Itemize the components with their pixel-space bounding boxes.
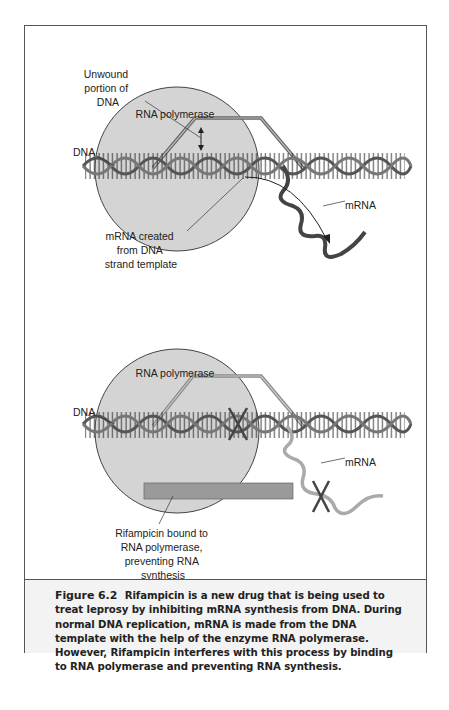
rifampicin-bar xyxy=(144,483,293,499)
mrna-label: mRNA xyxy=(345,199,376,211)
dna-helix-2 xyxy=(83,412,411,438)
transcription-diagram: RNA polymerase DNA Unwound portion of DN… xyxy=(25,26,428,579)
bottom-panel: RNA polymerase DNA mRNA Rifampicin bound… xyxy=(73,349,411,579)
dna-helix xyxy=(83,153,411,179)
mrna-strand-dark xyxy=(281,166,365,257)
top-panel: RNA polymerase DNA Unwound portion of DN… xyxy=(73,68,411,270)
mrna-strand-light xyxy=(285,426,383,514)
figure-number: Figure 6.2 xyxy=(55,589,117,602)
figure-caption: Figure 6.2 Rifampicin is a new drug that… xyxy=(25,579,426,653)
rna-polymerase-label-2: RNA polymerase xyxy=(136,367,215,379)
dna-label-2: DNA xyxy=(73,406,95,418)
dna-label: DNA xyxy=(73,146,95,158)
unwound-label: Unwound portion of DNA xyxy=(84,68,131,108)
mrna-label-2: mRNA xyxy=(345,456,376,468)
caption-text: Rifampicin is a new drug that is being u… xyxy=(55,590,402,672)
rifampicin-label: Rifampicin bound to RNA polymerase, prev… xyxy=(115,527,211,579)
figure-frame: RNA polymerase DNA Unwound portion of DN… xyxy=(24,25,427,653)
rna-polymerase-label: RNA polymerase xyxy=(136,108,215,120)
